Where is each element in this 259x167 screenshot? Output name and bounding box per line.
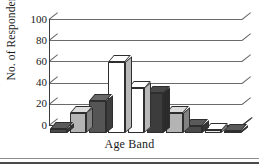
gridline-depth [242,12,251,20]
bar-side-face [144,83,151,133]
footer-rule-thick [0,162,259,164]
y-axis-tick-labels: 100806040200 [17,0,47,130]
y-tick-label: 0 [42,120,48,131]
gridline-depth [242,76,251,84]
gridline-depth [242,34,251,42]
bar-side-face [106,95,113,133]
plot-front-plane [49,19,242,125]
bar-chart: No. of Respondents 100806040200 Age Band [0,0,259,167]
bar [224,131,241,133]
plot-area [49,11,250,125]
bar [50,129,67,133]
bar-front-face [205,130,222,133]
bar-front-face [224,131,241,133]
y-tick-label: 40 [36,77,47,88]
bar-side-face [125,56,132,133]
y-tick-label: 20 [36,98,47,109]
x-axis-title: Age Band [0,137,259,152]
footer-rule-thin [0,158,259,159]
gridline-depth [242,55,251,63]
y-tick-label: 80 [36,35,47,46]
bar-side-face [163,87,170,133]
y-tick-label: 60 [36,56,47,67]
y-axis-line [49,19,50,125]
y-tick-label: 100 [31,14,48,25]
gridline-depth [242,97,251,105]
bar [205,130,222,133]
bar-series [49,19,242,133]
bar-front-face [50,129,67,133]
